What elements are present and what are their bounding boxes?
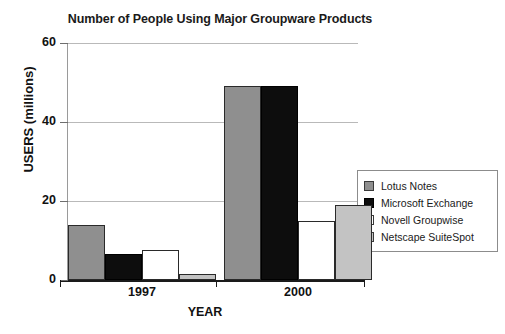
y-axis-tick-label: 40 — [22, 114, 56, 128]
chart-figure: Number of People Using Major Groupware P… — [0, 0, 505, 334]
legend-item-label: Microsoft Exchange — [381, 197, 473, 209]
bar — [261, 86, 298, 280]
y-axis-tick-mark — [60, 280, 68, 281]
x-axis-title: YEAR — [125, 305, 285, 319]
bar — [298, 221, 335, 280]
bar — [335, 205, 372, 280]
bar — [68, 225, 105, 280]
legend-item-label: Lotus Notes — [381, 180, 437, 192]
y-axis-tick-label: 60 — [22, 35, 56, 49]
legend-item-label: Novell Groupwise — [381, 214, 463, 226]
legend-item: Microsoft Exchange — [364, 194, 492, 211]
y-axis-tick-mark — [60, 201, 68, 202]
bar — [224, 86, 261, 280]
legend-item: Lotus Notes — [364, 177, 492, 194]
y-axis-tick-label: 0 — [22, 272, 56, 286]
bar — [105, 254, 142, 280]
x-axis-tick-mark — [60, 280, 61, 287]
legend-swatch-icon — [364, 181, 374, 191]
legend-item: Netscape SuiteSpot — [364, 228, 492, 245]
x-axis-group-label: 2000 — [253, 285, 343, 299]
plot-area — [68, 43, 358, 280]
bar — [179, 274, 216, 280]
x-axis-group-label: 1997 — [97, 285, 187, 299]
y-axis-tick-label: 20 — [22, 193, 56, 207]
legend-item: Novell Groupwise — [364, 211, 492, 228]
legend-item-label: Netscape SuiteSpot — [381, 231, 474, 243]
chart-title: Number of People Using Major Groupware P… — [0, 12, 440, 26]
y-axis-tick-mark — [60, 122, 68, 123]
x-axis-tick-mark — [364, 280, 365, 287]
chart-legend: Lotus NotesMicrosoft ExchangeNovell Grou… — [357, 170, 498, 252]
y-axis-tick-mark — [60, 43, 68, 44]
x-axis-tick-mark — [216, 280, 217, 287]
x-axis-line — [60, 280, 365, 282]
bar — [142, 250, 179, 280]
